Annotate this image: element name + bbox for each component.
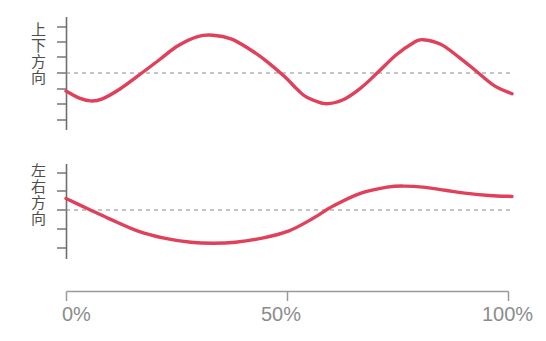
y-axis-ticks-bottom: [57, 173, 67, 248]
data-line-horizontal-direction: [66, 186, 512, 243]
x-axis: [67, 292, 509, 302]
data-line-vertical-direction: [66, 35, 512, 104]
y-axis-ticks-top: [57, 27, 67, 120]
chart-figure: 上下方向 左右方向 0% 50% 100%: [0, 0, 546, 341]
chart-plot-area: [0, 0, 546, 341]
panel-horizontal-direction: [57, 164, 512, 259]
panel-vertical-direction: [57, 17, 512, 130]
